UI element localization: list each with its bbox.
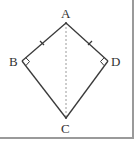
label-b: B	[9, 54, 18, 69]
vertex-a	[65, 22, 67, 24]
label-d: D	[111, 54, 120, 69]
right-angle-mark-d	[101, 58, 105, 66]
side-ad	[66, 23, 108, 61]
vertex-c	[65, 117, 67, 119]
side-bc	[22, 61, 66, 118]
label-c: C	[61, 121, 70, 136]
side-dc	[66, 61, 108, 118]
right-angle-mark-b	[26, 58, 30, 66]
label-a: A	[61, 6, 71, 21]
kite-diagram: A B C D	[0, 0, 135, 143]
side-ab	[22, 23, 66, 61]
